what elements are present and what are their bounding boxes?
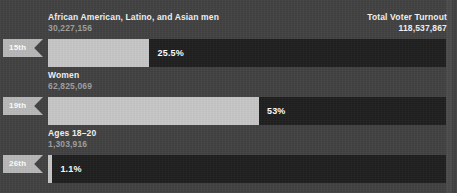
bar-track: 1.1% [48,155,446,183]
voter-turnout-infographic: African American, Latino, and Asian men … [0,0,457,193]
amendment-badge: 26th [3,155,43,173]
bar-value-label: 53% [267,97,286,125]
bar-row: African American, Latino, and Asian men … [0,10,457,68]
row-group-count: 1,303,916 [48,139,96,150]
amendment-badge-label: 26th [3,155,26,173]
bar-track: 25.5% [48,39,446,67]
bar-row: Ages 18–20 1,303,916 26th 1.1% [0,126,457,184]
amendment-badge-label: 15th [3,39,26,57]
amendment-badge-label: 19th [3,97,26,115]
amendment-badge: 15th [3,39,43,57]
bar-value-label: 1.1% [60,155,81,183]
row-label-group: Women 62,825,069 [48,70,92,92]
bar-fill [48,97,259,125]
row-label-group: Ages 18–20 1,303,916 [48,128,96,150]
amendment-badge: 19th [3,97,43,115]
bar-value-label: 25.5% [157,39,184,67]
bar-fill [48,155,52,183]
row-group-name: Ages 18–20 [48,128,96,139]
row-group-name: Women [48,70,92,81]
bar-fill [48,39,149,67]
bar-row: Women 62,825,069 19th 53% [0,68,457,126]
row-group-count: 62,825,069 [48,81,92,92]
bar-track: 53% [48,97,446,125]
